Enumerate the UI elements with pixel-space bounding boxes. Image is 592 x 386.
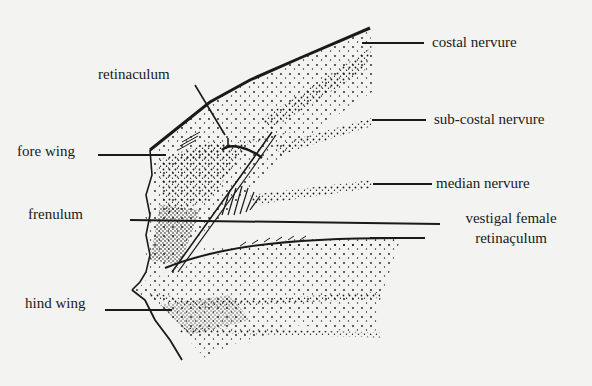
label-fore-wing: fore wing xyxy=(17,144,75,159)
label-vestigal-female-retinaculum: vestigal female retinaçulum xyxy=(446,208,576,248)
label-vestigal-female-line1: vestigal female xyxy=(446,208,576,228)
label-retinaculum: retinaculum xyxy=(98,67,170,82)
label-sub-costal-nervure: sub-costal nervure xyxy=(434,112,544,127)
label-vestigal-female-line2: retinaçulum xyxy=(446,228,576,248)
label-hind-wing: hind wing xyxy=(25,296,85,311)
label-frenulum: frenulum xyxy=(28,207,83,222)
label-costal-nervure: costal nervure xyxy=(432,35,517,50)
wing-diagram xyxy=(0,0,592,386)
label-median-nervure: median nervure xyxy=(436,176,530,191)
